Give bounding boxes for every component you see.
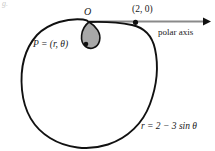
origin-label: O <box>84 7 91 17</box>
equation-label: r = 2 − 3 sin θ <box>141 122 197 132</box>
polar-graph-figure: g. O (2, 0) polar axis P = (r, θ) r = 2 … <box>0 0 215 151</box>
polar-axis-label: polar axis <box>158 28 193 37</box>
point-p-marker <box>84 42 89 47</box>
corner-artifact-label: g. <box>2 0 8 8</box>
intercept-point-label: (2, 0) <box>132 5 153 15</box>
polar-axis-arrowhead <box>203 18 211 26</box>
point-p-label: P = (r, θ) <box>33 40 68 50</box>
intercept-point-marker <box>133 20 138 25</box>
